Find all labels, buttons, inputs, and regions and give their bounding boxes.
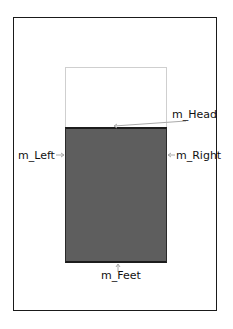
- label-m-head: m_Head: [172, 109, 217, 121]
- label-m-feet: m_Feet: [101, 270, 141, 282]
- label-m-left: m_Left: [18, 150, 55, 162]
- label-m-right: m_Right: [176, 150, 221, 162]
